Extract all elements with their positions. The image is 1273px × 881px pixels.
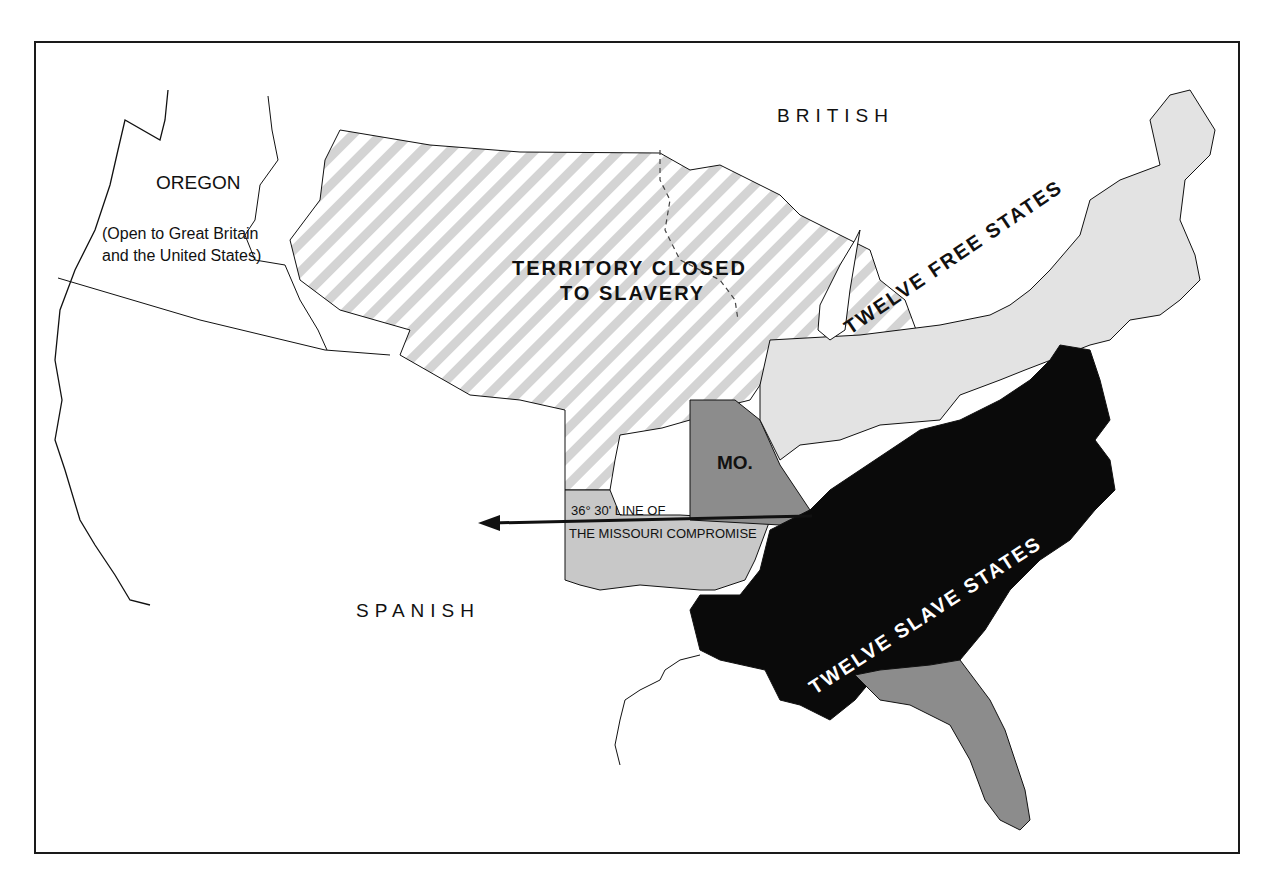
florida-territory (855, 660, 1030, 830)
pacific-coastline (55, 90, 168, 605)
label-missouri: MO. (717, 452, 753, 474)
label-british: BRITISH (777, 105, 894, 127)
label-oregon: OREGON (156, 172, 240, 194)
label-oregon-note-1: (Open to Great Britain (102, 225, 259, 243)
map-canvas (0, 0, 1273, 881)
label-territory-2: TO SLAVERY (560, 282, 705, 305)
arrowhead-icon (478, 515, 500, 531)
gulf-coastline (615, 655, 700, 765)
label-spanish: SPANISH (356, 600, 480, 622)
label-compromise-1: 36° 30' LINE OF (571, 503, 665, 518)
label-territory-1: TERRITORY CLOSED (512, 257, 747, 280)
label-compromise-2: THE MISSOURI COMPROMISE (569, 526, 757, 541)
label-oregon-note-2: and the United States) (102, 247, 261, 265)
